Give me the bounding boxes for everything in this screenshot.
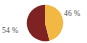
pie-label-46-percent: 46 % <box>64 10 80 18</box>
pie-chart-graphic <box>26 4 64 42</box>
pie-chart-figure: 46 % 54 % <box>0 0 87 43</box>
pie-label-54-percent: 54 % <box>2 27 18 35</box>
